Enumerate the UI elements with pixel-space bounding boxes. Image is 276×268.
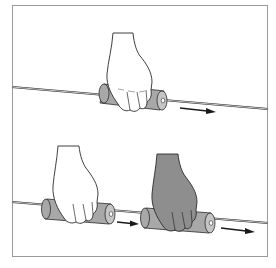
illustration [0, 0, 276, 268]
hand-dark [152, 154, 197, 231]
arrow-right-icon [180, 108, 216, 114]
top-panel [12, 33, 268, 114]
arrow-right-icon [221, 228, 255, 234]
hand-light [53, 146, 98, 223]
bottom-panel [12, 146, 268, 234]
arrow-right-icon [117, 221, 139, 227]
